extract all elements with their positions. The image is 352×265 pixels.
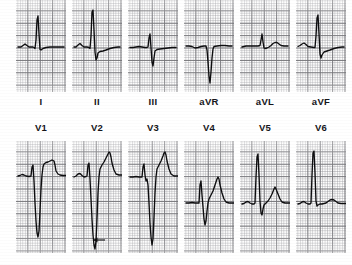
lead-plot-area-V4 [184,141,234,253]
ecg-trace-V2 [72,141,122,253]
waveform-path [186,46,232,84]
lead-panel-aVL[interactable]: aVL [240,0,290,92]
lead-panel-II[interactable]: II [72,0,122,92]
ecg-trace-aVR [184,0,234,92]
lead-panel-V2[interactable]: V2 [72,122,122,265]
lead-panel-III[interactable]: III [128,0,178,92]
waveform-path [242,154,290,215]
ecg-trace-V5 [240,141,290,253]
ecg-trace-I [16,0,66,92]
lead-label-I: I [16,96,66,107]
lead-label-V5: V5 [240,122,290,133]
chest-leads-row: V1 V2 [0,122,352,265]
lead-plot-area-V1 [16,141,66,253]
lead-panel-aVF[interactable]: aVF [296,0,346,92]
ecg-trace-V6 [296,141,346,253]
waveform-path [298,151,346,206]
lead-label-V3: V3 [128,122,178,133]
ecg-trace-V4 [184,141,234,253]
lead-label-III: III [128,96,178,107]
waveform-path [18,160,66,237]
lead-plot-area-V6 [296,141,346,253]
lead-label-V6: V6 [296,122,346,133]
lead-label-V2: V2 [72,122,122,133]
waveform-path [186,177,234,225]
lead-panel-V3[interactable]: V3 [128,122,178,265]
lead-plot-area-V5 [240,141,290,253]
lead-plot-area-V3 [128,141,178,253]
lead-label-II: II [72,96,122,107]
lead-label-aVR: aVR [184,96,234,107]
lead-label-V1: V1 [16,122,66,133]
waveform-path [74,152,122,249]
ecg-trace-aVL [240,0,290,92]
ecg-trace-V3 [128,141,178,253]
lead-panel-V4[interactable]: V4 [184,122,234,265]
lead-plot-area-V2 [72,141,122,253]
waveform-path [130,152,178,245]
ecg-trace-III [128,0,178,92]
waveform-path [298,15,344,58]
limb-leads-row: I II III aVR [0,0,352,114]
ecg-trace-aVF [296,0,346,92]
lead-panel-V6[interactable]: V6 [296,122,346,265]
lead-panel-aVR[interactable]: aVR [184,0,234,92]
lead-label-aVL: aVL [240,96,290,107]
waveform-path [242,34,288,49]
lead-panel-I[interactable]: I [16,0,66,92]
lead-panel-V1[interactable]: V1 [16,122,66,265]
waveform-path [74,10,120,60]
ecg-trace-V1 [16,141,66,253]
lead-panel-V5[interactable]: V5 [240,122,290,265]
lead-label-V4: V4 [184,122,234,133]
waveform-path [18,16,64,50]
waveform-path [130,34,176,66]
lead-label-aVF: aVF [296,96,346,107]
ecg-trace-II [72,0,122,92]
ecg-sheet: I II III aVR [0,0,352,265]
